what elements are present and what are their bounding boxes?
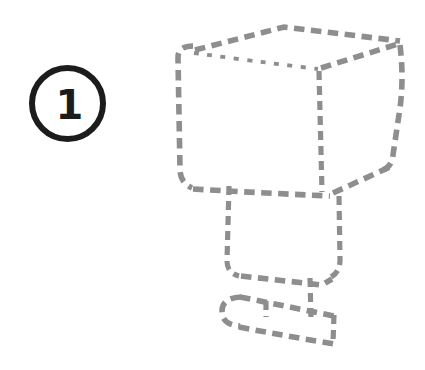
- base-left-curve: [222, 297, 241, 326]
- cube-right-edge: [381, 45, 402, 171]
- cube-top-right-edge: [321, 44, 398, 68]
- cube-front-top-edge: [194, 53, 318, 69]
- base-top-edge: [240, 297, 334, 316]
- illustration-canvas: 1: [0, 0, 425, 370]
- dashed-sketch-drawing: [0, 0, 425, 370]
- cube-bottom-right-edge: [333, 166, 392, 193]
- base-right-edge: [333, 315, 334, 343]
- dashed-sketch-group: [178, 27, 402, 344]
- cube-bottom-edge: [193, 189, 330, 196]
- base-bottom-edge: [239, 327, 334, 344]
- cube-left-edge: [178, 46, 193, 188]
- pedestal-left-edge: [227, 186, 239, 276]
- pedestal-bottom-edge: [241, 276, 332, 285]
- cube-inner-vertical-edge: [319, 71, 322, 192]
- pedestal-right-edge: [331, 196, 340, 277]
- cube-top-back-edge: [195, 27, 400, 50]
